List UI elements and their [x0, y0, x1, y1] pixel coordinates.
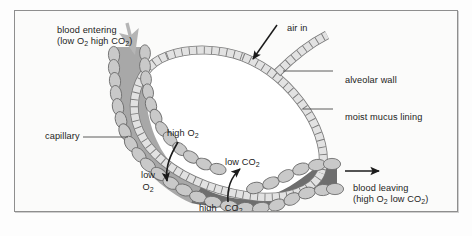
- air-in-arrow: [253, 25, 277, 59]
- label-air-in: air in: [287, 23, 308, 34]
- label-low-o2: low O2: [141, 169, 155, 194]
- label-blood-entering: blood entering (low O2 high CO2): [57, 25, 132, 48]
- label-high-co2: high CO2: [199, 203, 243, 212]
- label-blood-leaving: blood leaving (high O2 low CO2): [353, 183, 428, 206]
- label-alveolar-wall: alveolar wall: [345, 75, 397, 86]
- diagram-frame: blood entering (low O2 high CO2) air in …: [14, 10, 458, 212]
- label-moist-mucus-lining: moist mucus lining: [345, 112, 422, 123]
- label-high-o2: high O2: [167, 128, 199, 139]
- figure-root: blood entering (low O2 high CO2) air in …: [0, 0, 472, 236]
- alveolar-wall-upper-right-branch: [277, 35, 327, 73]
- label-low-co2: low CO2: [225, 157, 260, 168]
- label-capillary: capillary: [45, 131, 80, 142]
